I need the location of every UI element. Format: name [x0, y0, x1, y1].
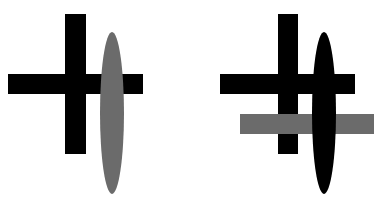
right-figure [220, 14, 374, 194]
illusion-canvas [0, 0, 384, 206]
right-black-ellipse [312, 32, 336, 194]
left-gray-ellipse [100, 32, 124, 194]
left-figure [8, 14, 143, 194]
right-gray-horizontal-bar [240, 114, 374, 134]
